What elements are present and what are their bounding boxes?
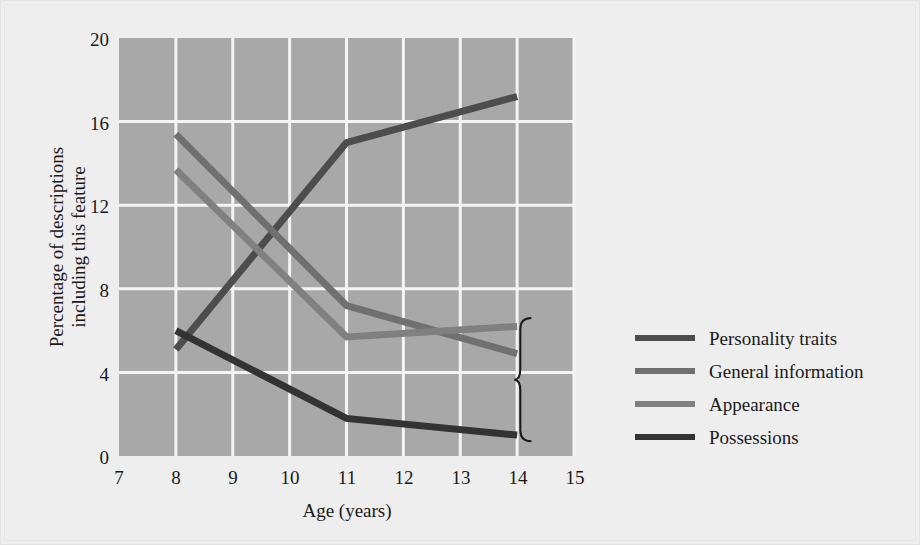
legend-swatch-appearance (635, 401, 695, 407)
chart-figure: 20 16 12 8 4 0 7 8 9 10 11 12 13 14 15 A… (0, 0, 920, 545)
x-tick-label-13: 13 (452, 467, 471, 488)
legend-swatch-personality-traits (635, 335, 695, 341)
y-tick-label-12: 12 (90, 196, 109, 217)
legend-label-appearance: Appearance (709, 394, 800, 415)
y-tick-label-8: 8 (100, 280, 110, 301)
x-tick-label-8: 8 (171, 467, 181, 488)
legend-label-personality-traits: Personality traits (709, 328, 837, 349)
x-tick-label-7: 7 (114, 467, 124, 488)
legend-swatch-possessions (635, 434, 695, 440)
y-tick-label-0: 0 (100, 447, 110, 468)
y-tick-label-20: 20 (90, 29, 109, 50)
legend-label-possessions: Possessions (709, 427, 799, 448)
line-chart: 20 16 12 8 4 0 7 8 9 10 11 12 13 14 15 A… (1, 1, 920, 545)
chart-legend: Personality traitsGeneral informationApp… (635, 328, 864, 448)
legend-swatch-general-information (635, 368, 695, 374)
x-tick-label-12: 12 (395, 467, 414, 488)
x-tick-label-9: 9 (228, 467, 238, 488)
x-tick-label-15: 15 (566, 467, 585, 488)
x-tick-label-14: 14 (509, 467, 529, 488)
y-axis-title-line1: Percentage of descriptions (46, 147, 67, 347)
y-tick-label-16: 16 (90, 113, 109, 134)
y-axis-title-line2: including this feature (68, 166, 89, 327)
x-tick-label-11: 11 (338, 467, 356, 488)
legend-label-general-information: General information (709, 361, 864, 382)
x-tick-label-10: 10 (281, 467, 300, 488)
x-axis-title: Age (years) (302, 500, 391, 522)
y-tick-label-4: 4 (100, 364, 110, 385)
